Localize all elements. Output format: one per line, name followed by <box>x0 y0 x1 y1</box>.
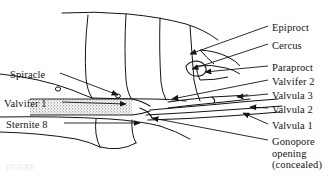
label-valvula3: Valvula 3 <box>272 90 313 102</box>
leader-line-group <box>60 26 268 140</box>
label-sternite8: Sternite 8 <box>6 119 48 131</box>
leader-line-paraproct <box>205 66 268 72</box>
label-paraproct: Paraproct <box>272 62 313 74</box>
leader-line-cercus <box>192 44 268 69</box>
label-gonopore-line-2: opening <box>272 148 330 160</box>
figure-caption: FIGURE <box>6 163 306 172</box>
label-gonopore-line-1: Gonopore <box>272 136 330 148</box>
label-cercus: Cercus <box>272 40 302 52</box>
label-valvula1: Valvula 1 <box>272 120 313 132</box>
label-spiracle: Spiracle <box>10 69 45 81</box>
label-valvifer2: Valvifer 2 <box>272 76 315 88</box>
leader-line-valvula1 <box>243 113 268 124</box>
epiproct-paraproct-cercus <box>186 50 240 80</box>
label-valvula2: Valvula 2 <box>272 104 313 116</box>
label-epiproct: Epiproct <box>272 22 309 34</box>
figure-root: EpiproctCercusParaproctValvifer 2Valvula… <box>0 0 330 176</box>
abdomen-outline <box>0 12 218 101</box>
label-valvifer1: Valvifer 1 <box>4 98 47 110</box>
